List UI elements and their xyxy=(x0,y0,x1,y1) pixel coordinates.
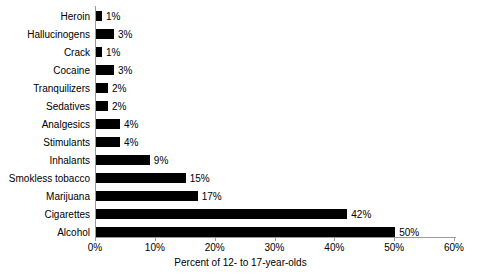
bar-value-label: 50% xyxy=(399,228,419,238)
bar xyxy=(96,119,120,129)
bar-chart: HeroinHallucinogensCrackCocaineTranquili… xyxy=(0,0,481,277)
bar-value-label: 1% xyxy=(106,12,120,22)
bar-value-label: 3% xyxy=(118,30,132,40)
category-label: Heroin xyxy=(61,12,90,22)
tick-mark xyxy=(394,238,395,241)
x-tick-label: 40% xyxy=(324,242,344,253)
bar xyxy=(96,47,102,57)
bar xyxy=(96,137,120,147)
category-label: Stimulants xyxy=(43,138,90,148)
bar xyxy=(96,83,108,93)
category-label: Cigarettes xyxy=(44,210,90,220)
x-tick-label: 60% xyxy=(444,242,464,253)
bar xyxy=(96,173,186,183)
bar xyxy=(96,101,108,111)
bar xyxy=(96,29,114,39)
bar-value-label: 1% xyxy=(106,48,120,58)
bar xyxy=(96,155,150,165)
bar-value-label: 4% xyxy=(124,138,138,148)
category-label: Crack xyxy=(64,48,90,58)
bar-value-label: 15% xyxy=(190,174,210,184)
bar-value-label: 9% xyxy=(154,156,168,166)
bar xyxy=(96,65,114,75)
category-label: Alcohol xyxy=(57,228,90,238)
tick-mark xyxy=(275,238,276,241)
category-label: Marijuana xyxy=(46,192,90,202)
bar-value-label: 3% xyxy=(118,66,132,76)
tick-mark xyxy=(215,238,216,241)
x-axis-title: Percent of 12- to 17-year-olds xyxy=(0,257,481,268)
x-tick-label: 30% xyxy=(264,242,284,253)
category-label: Hallucinogens xyxy=(27,30,90,40)
category-label: Sedatives xyxy=(46,102,90,112)
bar xyxy=(96,11,102,21)
tick-mark xyxy=(95,238,96,241)
tick-mark xyxy=(155,238,156,241)
bar-value-label: 42% xyxy=(351,210,371,220)
x-tick-label: 20% xyxy=(205,242,225,253)
x-tick-label: 50% xyxy=(384,242,404,253)
x-tick-label: 10% xyxy=(145,242,165,253)
bar-value-label: 17% xyxy=(202,192,222,202)
category-label: Cocaine xyxy=(53,66,90,76)
category-label: Tranquilizers xyxy=(33,84,90,94)
category-label: Smokless tobacco xyxy=(9,174,90,184)
category-label: Analgesics xyxy=(42,120,90,130)
x-tick-label: 0% xyxy=(88,242,102,253)
category-label: Inhalants xyxy=(49,156,90,166)
tick-mark xyxy=(454,238,455,241)
bar xyxy=(96,191,198,201)
bar xyxy=(96,209,347,219)
bar-value-label: 2% xyxy=(112,84,126,94)
bar xyxy=(96,227,395,237)
tick-mark xyxy=(334,238,335,241)
bar-value-label: 2% xyxy=(112,102,126,112)
bar-value-label: 4% xyxy=(124,120,138,130)
